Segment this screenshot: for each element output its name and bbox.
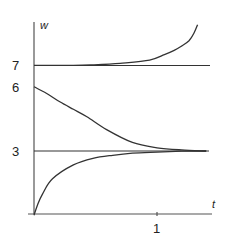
x-axis-label: t: [212, 198, 216, 210]
curve-decreasing-from-6: [34, 87, 206, 151]
chart-svg: w t 7 6 3 1: [0, 0, 228, 238]
y-axis-label: w: [40, 19, 49, 31]
y-tick-label-6: 6: [12, 80, 19, 95]
y-tick-label-7: 7: [12, 58, 19, 73]
curve-diverging-above-7: [34, 25, 198, 66]
y-tick-label-3: 3: [12, 144, 19, 159]
x-tick-label-1: 1: [153, 221, 160, 236]
curve-increasing-from-0: [34, 151, 206, 215]
chart-area: w t 7 6 3 1: [0, 0, 228, 238]
